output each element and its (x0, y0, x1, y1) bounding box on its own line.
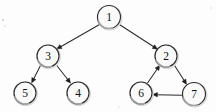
graph-edge-6-to-2 (147, 65, 159, 83)
graph-node-3[interactable]: 3 (37, 45, 61, 69)
edge-arrowhead (182, 79, 187, 84)
edge-line (147, 67, 158, 83)
node-label: 4 (75, 87, 81, 99)
graph-node-1[interactable]: 1 (97, 5, 122, 30)
edge-line (33, 65, 41, 81)
directed-graph-canvas: 1325467 (0, 0, 216, 112)
graph-edge-7-to-6 (152, 92, 182, 97)
scan-speck (2, 19, 4, 21)
node-layer: 1325467 (14, 5, 207, 107)
figure-container: 1325467 (0, 0, 216, 112)
scan-speck (4, 25, 6, 27)
node-label: 3 (45, 50, 51, 62)
edge-line (155, 95, 182, 96)
graph-node-2[interactable]: 2 (155, 45, 179, 69)
edge-line (56, 64, 69, 81)
graph-edge-2-to-7 (174, 64, 187, 84)
node-label: 5 (22, 87, 28, 99)
edge-line (118, 24, 155, 48)
node-label: 6 (138, 87, 144, 99)
graph-node-5[interactable]: 5 (14, 82, 38, 106)
node-label: 1 (106, 11, 112, 23)
edge-arrowhead (152, 45, 157, 50)
scan-speck (118, 106, 119, 107)
edge-line (174, 64, 186, 82)
graph-edge-1-to-3 (57, 24, 100, 49)
scan-speck (210, 7, 211, 8)
graph-node-4[interactable]: 4 (67, 82, 91, 106)
graph-node-6[interactable]: 6 (130, 82, 154, 106)
node-label: 7 (191, 88, 197, 100)
graph-edge-3-to-5 (32, 65, 41, 83)
graph-node-7[interactable]: 7 (182, 82, 207, 107)
edge-line (59, 24, 100, 48)
node-label: 2 (163, 50, 169, 62)
graph-edge-3-to-4 (56, 64, 71, 83)
graph-edge-1-to-2 (118, 24, 157, 50)
edge-arrowhead (32, 78, 36, 83)
